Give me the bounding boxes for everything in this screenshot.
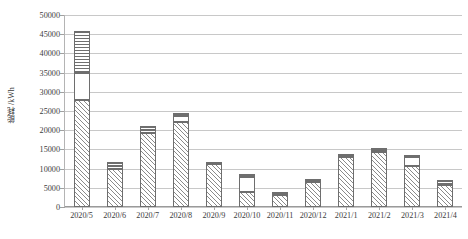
x-axis-tick-label: 2020/12 <box>300 211 327 220</box>
grid-line <box>65 34 462 35</box>
y-axis-tick-label: 45000 <box>40 30 60 39</box>
x-axis-tick-label: 2020/5 <box>70 211 93 220</box>
x-axis-tick-label: 2021/1 <box>335 211 358 220</box>
bar-2021-4[interactable] <box>437 180 453 207</box>
grid-line <box>65 149 462 150</box>
grid-line <box>65 53 462 54</box>
grid-line <box>65 111 462 112</box>
bar-segment-series-2 <box>107 166 123 169</box>
bar-segment-series-2 <box>140 130 156 132</box>
bar-segment-series-3 <box>371 148 387 151</box>
bar-segment-series-2 <box>74 73 90 100</box>
x-axis-tick-mark <box>82 207 83 210</box>
bar-segment-series-1 <box>371 152 387 207</box>
bar-2020-5[interactable] <box>74 31 90 207</box>
x-axis-tick-label: 2020/11 <box>267 211 294 220</box>
x-axis-tick-mark <box>313 207 314 210</box>
bar-segment-series-2 <box>239 177 255 191</box>
x-axis-tick-label: 2020/8 <box>169 211 192 220</box>
bar-segment-series-1 <box>206 164 222 207</box>
x-axis-tick-label: 2020/9 <box>203 211 226 220</box>
bar-segment-series-3 <box>107 162 123 166</box>
plot-area <box>65 15 462 207</box>
y-axis-tick-label: 15000 <box>40 145 60 154</box>
bar-segment-series-3 <box>305 179 321 181</box>
grid-line <box>65 207 462 208</box>
bar-2021-2[interactable] <box>371 148 387 207</box>
y-axis-tick-label: 50000 <box>40 11 60 20</box>
bar-segment-series-1 <box>173 122 189 207</box>
bar-2021-1[interactable] <box>338 154 354 207</box>
bar-segment-series-3 <box>173 113 189 116</box>
bar-segment-series-1 <box>437 185 453 207</box>
y-axis-tick-label: 5000 <box>44 183 60 192</box>
x-axis-tick-label: 2021/2 <box>368 211 391 220</box>
bar-segment-series-3 <box>74 31 90 73</box>
y-axis-tick-label: 35000 <box>40 68 60 77</box>
x-axis-tick-mark <box>412 207 413 210</box>
bar-2020-11[interactable] <box>272 192 288 207</box>
bar-2020-12[interactable] <box>305 179 321 207</box>
x-axis-tick-labels: 2020/52020/62020/72020/82020/92020/10202… <box>0 209 468 233</box>
x-axis-tick-mark <box>346 207 347 210</box>
x-axis-tick-label: 2021/4 <box>434 211 457 220</box>
grid-line <box>65 130 462 131</box>
bar-segment-series-3 <box>140 126 156 130</box>
bar-segment-series-3 <box>404 155 420 157</box>
bar-2020-8[interactable] <box>173 113 189 207</box>
y-axis-tick-label: 30000 <box>40 87 60 96</box>
x-axis-tick-mark <box>148 207 149 210</box>
bar-segment-series-3 <box>338 154 354 156</box>
y-axis-tick-label: 40000 <box>40 49 60 58</box>
x-axis-tick-label: 2021/3 <box>401 211 424 220</box>
bar-segment-series-3 <box>437 180 453 184</box>
bar-segment-series-1 <box>140 133 156 207</box>
bar-2020-6[interactable] <box>107 162 123 207</box>
bar-segment-series-2 <box>404 157 420 166</box>
bar-segment-series-1 <box>404 166 420 207</box>
bar-2020-7[interactable] <box>140 126 156 207</box>
bar-2020-10[interactable] <box>239 174 255 207</box>
x-axis-tick-mark <box>247 207 248 210</box>
bar-segment-series-3 <box>272 192 288 194</box>
x-axis-tick-label: 2020/10 <box>234 211 261 220</box>
bar-segment-series-3 <box>239 174 255 177</box>
bar-segment-series-2 <box>173 116 189 122</box>
bar-segment-series-3 <box>206 162 222 164</box>
y-axis-title: 能耗 /kWh <box>8 62 22 148</box>
y-axis-tick-label: 25000 <box>40 107 60 116</box>
x-axis-tick-mark <box>115 207 116 210</box>
grid-line <box>65 15 462 16</box>
grid-line <box>65 92 462 93</box>
bar-segment-series-1 <box>305 182 321 207</box>
chart-container: 能耗 /kWh 05000100001500020000250003000035… <box>0 0 468 239</box>
grid-line <box>65 188 462 189</box>
bar-2020-9[interactable] <box>206 162 222 207</box>
y-axis-tick-label: 20000 <box>40 126 60 135</box>
x-axis-tick-mark <box>280 207 281 210</box>
x-axis-tick-mark <box>214 207 215 210</box>
bar-segment-series-1 <box>272 195 288 207</box>
x-axis-tick-mark <box>181 207 182 210</box>
bar-segment-series-1 <box>239 192 255 207</box>
bar-segment-series-1 <box>107 169 123 207</box>
x-axis-tick-label: 2020/6 <box>103 211 126 220</box>
bar-segment-series-1 <box>338 157 354 207</box>
x-axis-tick-mark <box>379 207 380 210</box>
x-axis-tick-mark <box>445 207 446 210</box>
grid-line <box>65 73 462 74</box>
bar-segment-series-1 <box>74 100 90 207</box>
x-axis-tick-label: 2020/7 <box>136 211 159 220</box>
bar-2021-3[interactable] <box>404 155 420 207</box>
y-axis-tick-label: 10000 <box>40 164 60 173</box>
grid-line <box>65 169 462 170</box>
